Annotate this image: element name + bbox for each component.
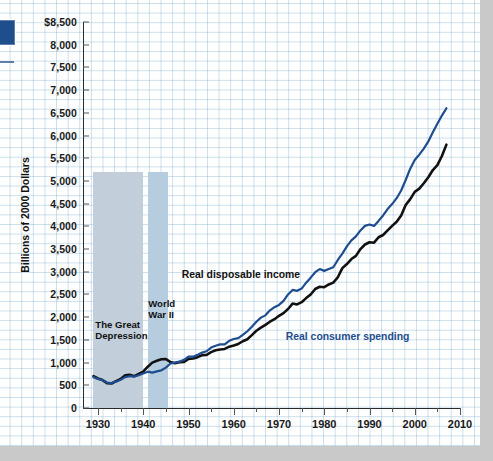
series-label-real-disposable-income: Real disposable income xyxy=(182,269,300,280)
y-axis-title: Billions of 2000 Dollars xyxy=(19,157,31,273)
x-minor-tick xyxy=(256,408,257,412)
y-tick-label: 5,000 xyxy=(50,175,77,187)
left-margin-rule xyxy=(0,61,14,63)
x-tick-label: 1960 xyxy=(222,418,246,430)
bottom-margin xyxy=(0,446,493,461)
y-tick-label: 0 xyxy=(71,402,77,414)
x-minor-tick xyxy=(347,408,348,412)
y-tick-label: 7,000 xyxy=(50,84,77,96)
right-margin xyxy=(480,0,493,446)
x-minor-tick xyxy=(121,408,122,412)
x-minor-tick xyxy=(302,408,303,412)
x-tick xyxy=(415,408,416,415)
x-tick-label: 2010 xyxy=(448,418,472,430)
y-tick-label: 7,500 xyxy=(50,61,77,73)
y-tick-label: 1,000 xyxy=(50,357,77,369)
y-tick-label: 6,000 xyxy=(50,130,77,142)
y-tick-label: 8,000 xyxy=(50,39,77,51)
x-tick xyxy=(460,408,461,415)
x-tick xyxy=(234,408,235,415)
x-minor-tick xyxy=(166,408,167,412)
y-tick-label: 2,000 xyxy=(50,311,77,323)
x-tick xyxy=(143,408,144,415)
x-tick xyxy=(189,408,190,415)
y-tick-label: 4,000 xyxy=(50,220,77,232)
x-minor-tick xyxy=(437,408,438,412)
y-tick-label: 2,500 xyxy=(50,288,77,300)
x-tick xyxy=(98,408,99,415)
x-tick xyxy=(324,408,325,415)
y-tick-label: 1,500 xyxy=(50,334,77,346)
series-label-real-consumer-spending: Real consumer spending xyxy=(286,331,410,342)
y-tick-label: 3,000 xyxy=(50,266,77,278)
y-tick-label: 3,500 xyxy=(50,243,77,255)
y-tick-label: 500 xyxy=(59,379,77,391)
x-axis-line xyxy=(83,408,461,409)
series-line-real-disposable-income xyxy=(93,145,446,384)
plot-area: Billions of 2000 Dollars The GreatDepres… xyxy=(83,22,461,408)
series-lines xyxy=(83,22,461,408)
x-tick-label: 1940 xyxy=(131,418,155,430)
x-minor-tick xyxy=(392,408,393,412)
x-tick xyxy=(370,408,371,415)
x-minor-tick xyxy=(211,408,212,412)
series-line-real-consumer-spending xyxy=(93,108,446,383)
y-tick-label: 5,500 xyxy=(50,152,77,164)
x-tick-label: 1930 xyxy=(86,418,110,430)
y-tick-label: 4,500 xyxy=(50,198,77,210)
x-tick-label: 2000 xyxy=(403,418,427,430)
x-tick xyxy=(279,408,280,415)
x-tick-label: 1980 xyxy=(312,418,336,430)
x-tick-label: 1950 xyxy=(176,418,200,430)
y-tick-label: $8,500 xyxy=(44,16,77,28)
figure-canvas: Billions of 2000 Dollars The GreatDepres… xyxy=(0,0,480,446)
x-tick-label: 1990 xyxy=(357,418,381,430)
x-tick-label: 1970 xyxy=(267,418,291,430)
y-tick-label: 6,500 xyxy=(50,107,77,119)
left-margin-color-swatch xyxy=(0,20,15,45)
